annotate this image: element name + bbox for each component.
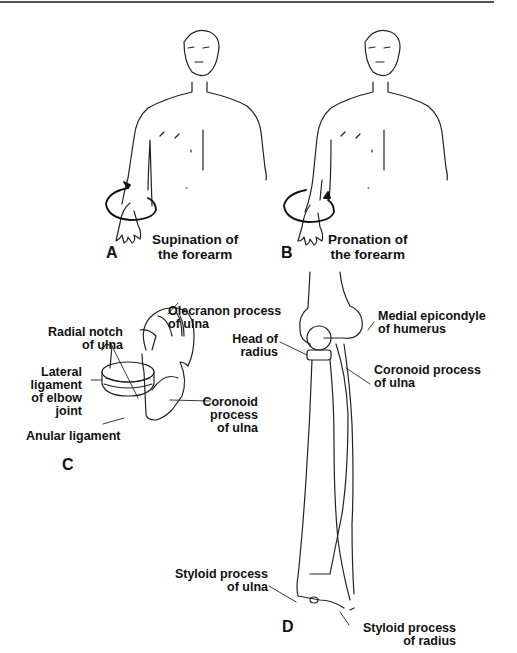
label-styloid-radius-line2: of radius [350, 635, 456, 648]
label-lateral-ligament: Lateral ligament of elbow joint [24, 366, 82, 418]
label-medial-line2: of humerus [378, 323, 486, 336]
figure-d-forearm [297, 272, 362, 610]
label-coronoid-d: Coronoid process of ulna [374, 364, 481, 390]
caption-pronation: Pronation of the forearm [328, 232, 408, 262]
caption-pronation-line2: the forearm [328, 247, 408, 262]
label-coronoid-d-line2: of ulna [374, 377, 481, 390]
label-radial-notch: Radial notch of ulna [38, 326, 123, 352]
label-head-of-radius: Head of radius [226, 333, 278, 359]
label-coronoid-c: Coronoid process of ulna [200, 396, 258, 435]
label-lateral-line4: joint [24, 405, 82, 418]
label-styloid-ulna-line2: of ulna [162, 581, 268, 594]
caption-supination: Supination of the forearm [152, 232, 238, 262]
label-anular-ligament: Anular ligament [26, 430, 120, 443]
label-coronoid-c-line3: of ulna [200, 422, 258, 435]
panel-label-d: D [282, 618, 294, 636]
caption-supination-line1: Supination of [152, 232, 238, 247]
label-radial-notch-line2: of ulna [38, 339, 123, 352]
label-olecranon-process: Olecranon process of ulna [168, 305, 281, 331]
label-olecranon-line2: of ulna [168, 318, 281, 331]
label-styloid-radius: Styloid process of radius [350, 622, 456, 648]
figure-b-torso [298, 30, 447, 245]
panel-label-c: C [62, 456, 74, 474]
panel-label-a: A [106, 244, 118, 262]
label-head-line2: radius [226, 346, 278, 359]
label-styloid-ulna: Styloid process of ulna [162, 568, 268, 594]
caption-supination-line2: the forearm [152, 247, 238, 262]
label-medial-epicondyle: Medial epicondyle of humerus [378, 310, 486, 336]
figure-a-torso [116, 30, 266, 243]
caption-pronation-line1: Pronation of [328, 232, 408, 247]
panel-label-b: B [281, 244, 293, 262]
